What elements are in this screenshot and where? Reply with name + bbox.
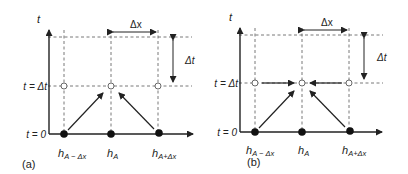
node-label-left: hA − Δx — [58, 147, 86, 161]
panel-a: t Δx Δt t = Δt t = 0 hA − Δx hA hA+Δx (a… — [22, 13, 196, 170]
known-node-center — [107, 130, 115, 138]
row-label-t-dt: t = Δt — [23, 81, 48, 92]
node-label-center: hA — [298, 144, 309, 158]
panel-caption-a: (a) — [22, 158, 35, 170]
t-axis-label: t — [229, 11, 233, 23]
t-axis-label: t — [37, 13, 41, 25]
node-label-center: hA — [107, 147, 118, 161]
unknown-node-center — [299, 80, 305, 86]
unknown-node-center — [108, 83, 114, 89]
arrow-left-diagonal — [259, 91, 294, 128]
known-node-right — [155, 129, 163, 137]
arrow-right-diagonal — [310, 91, 345, 127]
unknown-node-left — [252, 80, 258, 86]
unknown-node-right — [155, 83, 161, 89]
panel-b: t Δx Δt t = Δt t = 0 hA − Δx hA hA+Δx (b… — [214, 11, 387, 168]
known-node-center — [298, 128, 306, 136]
row-label-t-0: t = 0 — [26, 129, 46, 140]
arrow-right-diagonal — [119, 93, 154, 129]
known-node-right — [346, 127, 354, 135]
known-node-left — [251, 128, 259, 136]
node-label-right: hA+Δx — [342, 144, 367, 158]
finite-difference-diagram: t Δx Δt t = Δt t = 0 hA − Δx hA hA+Δx (a… — [0, 0, 408, 174]
unknown-node-right — [346, 80, 352, 86]
row-label-t-0: t = 0 — [217, 127, 237, 138]
delta-t-label: Δt — [184, 55, 196, 66]
arrow-left-diagonal — [68, 93, 103, 130]
delta-t-label: Δt — [376, 52, 388, 63]
row-label-t-dt: t = Δt — [214, 78, 239, 89]
dashed-grid — [48, 30, 192, 134]
delta-x-label: Δx — [321, 17, 333, 28]
unknown-node-left — [61, 83, 67, 89]
delta-x-label: Δx — [130, 19, 142, 30]
dashed-grid — [239, 28, 383, 132]
panel-caption-b: (b) — [247, 156, 260, 168]
known-node-left — [60, 130, 68, 138]
node-label-right: hA+Δx — [152, 147, 177, 161]
